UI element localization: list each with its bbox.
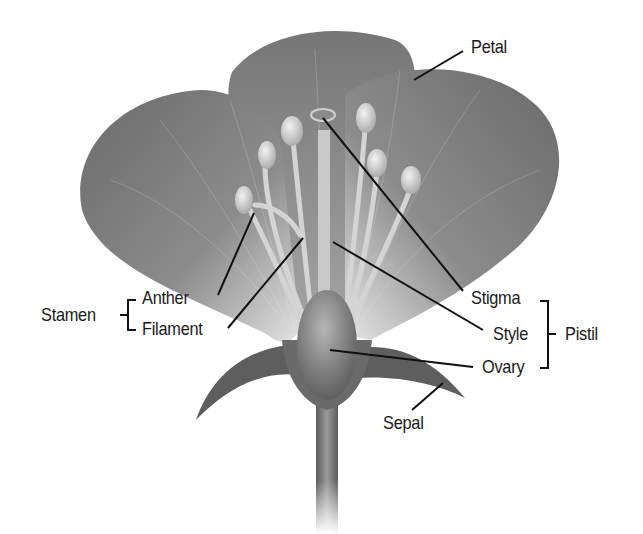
stamen-bracket	[120, 300, 136, 330]
pistil-bracket	[540, 301, 556, 368]
label-sepal: Sepal	[383, 412, 424, 434]
label-petal: Petal	[471, 36, 507, 58]
label-ovary: Ovary	[482, 356, 524, 378]
label-stigma: Stigma	[471, 287, 520, 309]
label-filament: Filament	[142, 318, 203, 340]
flower-illustration	[0, 0, 643, 534]
petal-right	[345, 69, 559, 340]
petal-left	[80, 90, 300, 342]
label-anther: Anther	[142, 287, 189, 309]
label-pistil: Pistil	[565, 323, 598, 345]
ovary	[297, 290, 357, 400]
stem	[310, 400, 344, 534]
sepal-leader	[412, 383, 443, 410]
label-stamen: Stamen	[41, 304, 96, 326]
flower-diagram: Petal Stigma Style Ovary Pistil Anther F…	[0, 0, 643, 534]
label-style: Style	[493, 323, 528, 345]
